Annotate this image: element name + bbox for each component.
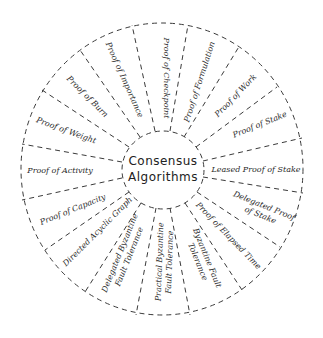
center-title: Consensus Algorithms xyxy=(128,153,198,185)
sector-label-pbft: Practical Byzantine Fault Tolerance xyxy=(154,222,177,301)
divider xyxy=(22,144,122,162)
center-title-line2: Algorithms xyxy=(128,169,198,185)
divider xyxy=(22,178,122,200)
sector-label-leased-pos: Leased Proof of Stake xyxy=(211,165,300,175)
sector-label-checkpoint: Proof of Checkpoint xyxy=(161,38,171,119)
divider xyxy=(203,138,302,161)
center-title-line1: Consensus xyxy=(128,153,198,169)
divider xyxy=(203,177,303,193)
sector-label-activity: Proof of Activity xyxy=(27,166,93,176)
